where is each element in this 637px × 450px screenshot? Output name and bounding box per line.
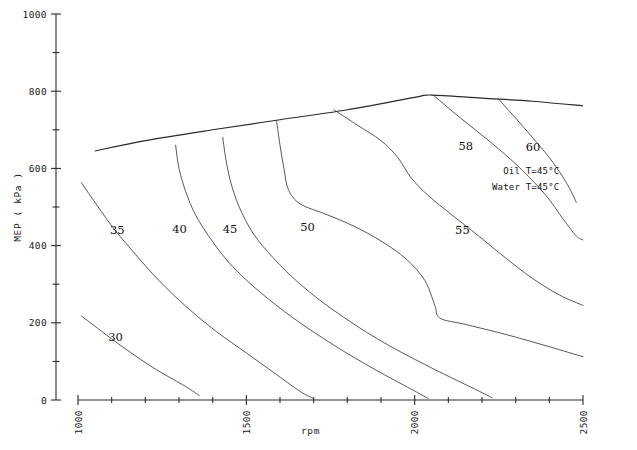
y-axis-tick-label: 1000 bbox=[23, 9, 47, 20]
contour-label-40: 40 bbox=[172, 222, 187, 236]
x-axis-tick-label: 1500 bbox=[241, 410, 252, 434]
contour-curve-50 bbox=[277, 121, 583, 356]
engine-performance-map-figure: 02004006008001000MEP ( kPa )100015002000… bbox=[0, 0, 637, 450]
y-axis-tick-label: 0 bbox=[41, 395, 47, 406]
contour-label-45: 45 bbox=[223, 222, 238, 236]
full-load-envelope-curve bbox=[95, 95, 583, 151]
contour-label-60: 60 bbox=[526, 140, 541, 154]
contour-label-58: 58 bbox=[458, 139, 473, 153]
y-axis-tick-label: 200 bbox=[29, 317, 47, 328]
annotation-oil-temperature: Oil T=45°C bbox=[503, 166, 559, 176]
annotation-water-temperature: Water T=45°C bbox=[492, 182, 559, 192]
x-axis-tick-label: 1000 bbox=[73, 410, 84, 434]
y-axis-title: MEP ( kPa ) bbox=[12, 172, 23, 242]
y-axis-tick-label: 400 bbox=[29, 240, 47, 251]
contour-curve-30 bbox=[81, 316, 199, 396]
contour-curve-35 bbox=[81, 183, 313, 399]
contour-label-35: 35 bbox=[110, 223, 125, 237]
contour-plot-svg: 02004006008001000MEP ( kPa )100015002000… bbox=[0, 0, 637, 450]
contour-curve-45 bbox=[223, 138, 492, 398]
x-axis-tick-label: 2000 bbox=[409, 410, 420, 434]
contour-label-50: 50 bbox=[300, 220, 315, 234]
contour-label-55: 55 bbox=[455, 223, 470, 237]
x-axis-tick-label: 2500 bbox=[578, 410, 589, 434]
contour-label-30: 30 bbox=[108, 330, 123, 344]
y-axis-tick-label: 600 bbox=[29, 163, 47, 174]
contour-curve-40 bbox=[176, 145, 429, 398]
x-axis-title: rpm bbox=[301, 425, 320, 436]
y-axis-tick-label: 800 bbox=[29, 86, 47, 97]
